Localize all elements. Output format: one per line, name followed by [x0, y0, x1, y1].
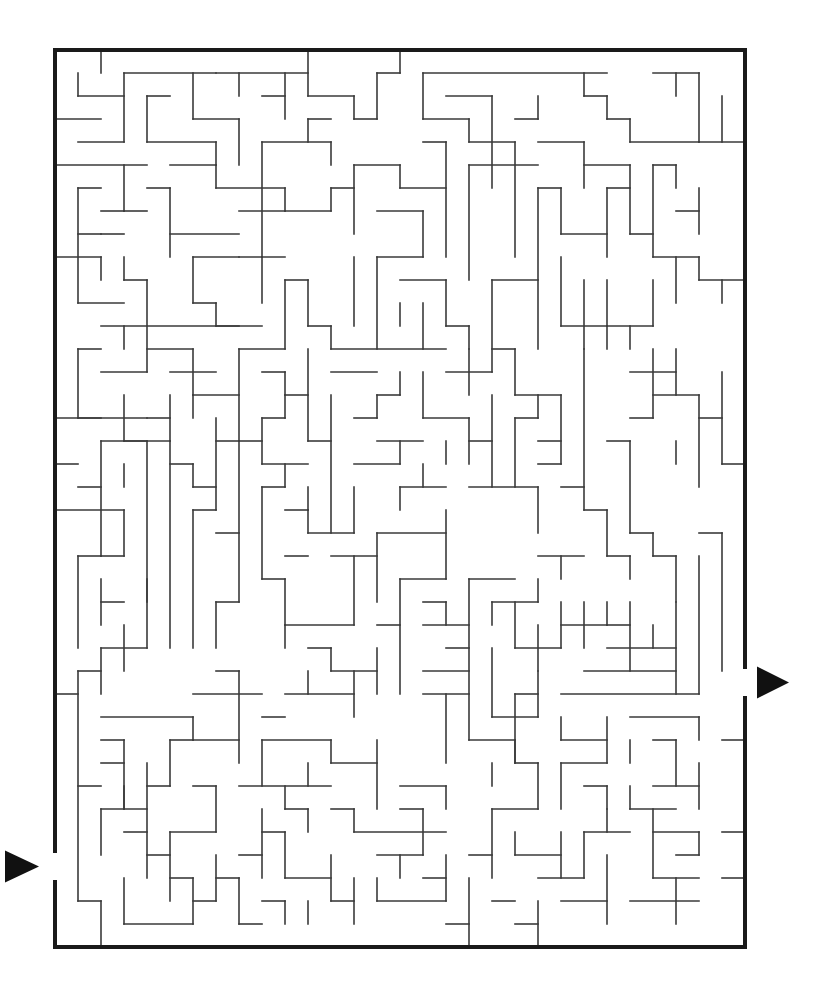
maze-walls	[55, 50, 745, 947]
exit-arrow-icon[interactable]	[757, 667, 789, 699]
maze-board	[0, 0, 834, 988]
entrance-arrow-icon[interactable]	[5, 851, 39, 883]
